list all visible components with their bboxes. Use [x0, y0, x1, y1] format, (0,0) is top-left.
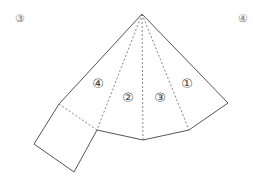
face-label-3: ③	[154, 90, 166, 105]
face-label-4: ④	[92, 76, 104, 91]
net-outline	[59, 14, 228, 140]
fold-line-2	[142, 14, 143, 140]
square-face-outline	[34, 104, 97, 172]
face-label-2: ②	[122, 90, 134, 105]
fold-line-1	[97, 14, 142, 130]
face-label-1: ①	[181, 76, 193, 91]
fold-line-square	[59, 104, 97, 130]
fold-line-3	[142, 14, 189, 130]
pyramid-net-diagram: ④ ② ③ ①	[0, 0, 253, 182]
